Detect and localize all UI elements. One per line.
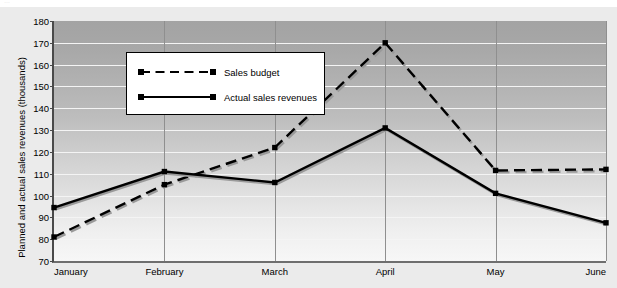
- legend-label-actual-sales-revenues: Actual sales revenues: [224, 92, 317, 103]
- x-axis-tick-label: April: [376, 266, 395, 277]
- legend-label-sales-budget: Sales budget: [224, 67, 279, 78]
- x-axis-tick-label: February: [145, 266, 183, 277]
- y-axis-tick-label: 70: [38, 256, 49, 267]
- y-axis-tick-mark: [50, 261, 54, 262]
- legend-item-actual-sales-revenues: Actual sales revenues: [127, 89, 324, 105]
- data-point-marker: [272, 180, 277, 185]
- y-axis-tick-label: 80: [38, 234, 49, 245]
- y-axis-title: Planned and actual sales revenues (thous…: [16, 43, 27, 273]
- legend-swatch-dashed-line: [138, 65, 216, 79]
- y-axis-tick-label: 150: [33, 81, 49, 92]
- top-cropped-text-sliver: …: [0, 0, 617, 7]
- data-point-marker: [162, 182, 167, 187]
- y-axis-tick-label: 120: [33, 146, 49, 157]
- chart-panel: Planned and actual sales revenues (thous…: [0, 7, 617, 288]
- y-axis-tick-label: 180: [33, 16, 49, 27]
- y-axis-tick-label: 110: [34, 168, 49, 179]
- data-point-marker: [51, 205, 56, 210]
- data-point-marker: [493, 191, 498, 196]
- data-point-marker: [51, 234, 56, 239]
- y-axis-tick-label: 90: [38, 212, 49, 223]
- data-point-marker: [603, 167, 608, 172]
- series-line-shadow: [56, 130, 608, 225]
- x-axis-tick-label: January: [54, 266, 88, 277]
- cropped-text-fragment: …: [4, 0, 10, 4]
- y-axis-tick-label: 130: [33, 125, 49, 136]
- x-axis-tick-label: March: [262, 266, 288, 277]
- data-point-marker: [383, 40, 388, 45]
- legend-swatch-solid-line: [138, 90, 216, 104]
- x-axis-tick-label: June: [585, 266, 606, 277]
- data-point-marker: [162, 169, 167, 174]
- chart-legend: Sales budget Actual sales revenues: [126, 52, 325, 115]
- data-point-marker: [383, 125, 388, 130]
- data-point-marker: [272, 145, 277, 150]
- plot-area: 708090100110120130140150160170180 Januar…: [52, 21, 606, 263]
- data-point-marker: [603, 220, 608, 225]
- y-axis-tick-label: 140: [33, 103, 49, 114]
- y-axis-tick-label: 170: [33, 37, 49, 48]
- y-axis-tick-label: 160: [33, 59, 49, 70]
- x-axis-tick-label: May: [487, 266, 505, 277]
- legend-item-sales-budget: Sales budget: [127, 64, 324, 80]
- data-point-marker: [493, 168, 498, 173]
- series-line-actual-sales-revenues: [54, 128, 606, 223]
- y-axis-tick-label: 100: [33, 190, 49, 201]
